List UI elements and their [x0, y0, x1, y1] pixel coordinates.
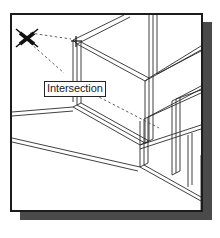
intersection-x-marker [16, 29, 38, 47]
osnap-tooltip: Intersection [44, 81, 106, 97]
osnap-tooltip-label: Intersection [47, 82, 103, 94]
screenshot-stage: Intersection [0, 0, 220, 238]
drawing-panel[interactable]: Intersection [10, 13, 203, 212]
wireframe-geometry [12, 15, 201, 210]
tracking-line-down-right [30, 43, 64, 73]
tracking-line-up-right [30, 33, 71, 39]
cad-wireframe-canvas[interactable] [12, 15, 201, 210]
